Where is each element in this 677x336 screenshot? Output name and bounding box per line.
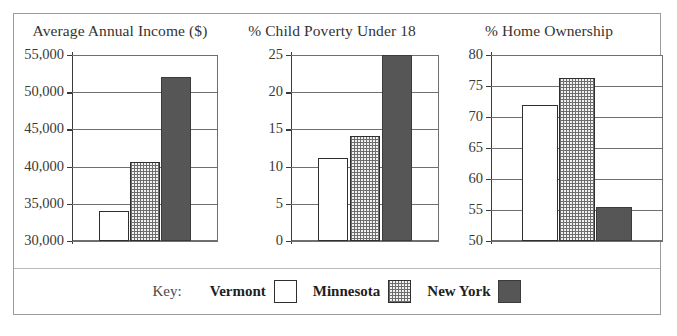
y-axis-tick-label: 60 <box>469 170 484 187</box>
y-axis-tick-label: 45,000 <box>24 121 64 138</box>
bar-series <box>291 55 439 241</box>
y-axis-tick-label: 25 <box>269 46 284 63</box>
gridline <box>291 241 439 242</box>
chart-panels: Average Annual Income ($) 30,00035,00040… <box>14 14 660 268</box>
plot-area: 30,00035,00040,00045,00050,00055,000 <box>72 55 218 241</box>
y-axis-tick <box>67 241 72 242</box>
y-axis-tick-label: 55,000 <box>24 46 64 63</box>
legend-item-minnesota: Minnesota <box>313 280 412 303</box>
gridline <box>491 241 663 242</box>
y-axis-tick-label: 10 <box>269 158 284 175</box>
chart-panel-child-poverty: % Child Poverty Under 18 0510152025 <box>226 14 438 268</box>
chart-title: Average Annual Income ($) <box>14 22 226 40</box>
bar-series <box>491 55 663 241</box>
bar-minnesota <box>350 136 380 241</box>
legend-key-label: Key: <box>153 283 182 300</box>
bar-series <box>72 55 218 241</box>
bar-vermont <box>522 105 557 241</box>
gridline <box>72 241 218 242</box>
y-axis-tick-label: 70 <box>469 108 484 125</box>
y-axis-tick-label: 40,000 <box>24 158 64 175</box>
y-axis-tick-label: 50,000 <box>24 84 64 101</box>
y-axis-tick-label: 50 <box>469 232 484 249</box>
y-axis-tick-label: 0 <box>276 232 283 249</box>
figure-container: Average Annual Income ($) 30,00035,00040… <box>13 13 661 315</box>
bar-vermont <box>99 211 129 241</box>
bar-vermont <box>318 158 348 241</box>
legend-item-new-york: New York <box>427 280 521 303</box>
legend-label-vermont: Vermont <box>210 283 266 300</box>
chart-title: % Home Ownership <box>438 22 660 40</box>
y-axis-tick-label: 5 <box>276 195 283 212</box>
bar-minnesota <box>130 162 160 241</box>
y-axis-tick-label: 35,000 <box>24 195 64 212</box>
y-axis-tick-label: 75 <box>469 77 484 94</box>
chart-panel-home-ownership: % Home Ownership 50556065707580 <box>438 14 660 268</box>
legend-swatch-vermont <box>274 280 297 303</box>
chart-panel-average-annual-income: Average Annual Income ($) 30,00035,00040… <box>14 14 226 268</box>
y-axis-tick-label: 15 <box>269 121 284 138</box>
y-axis-tick-label: 65 <box>469 139 484 156</box>
bar-new-york <box>161 77 191 241</box>
y-axis-tick-label: 55 <box>469 201 484 218</box>
legend-swatch-minnesota <box>388 280 411 303</box>
y-axis-tick <box>286 241 291 242</box>
plot-area: 0510152025 <box>291 55 439 241</box>
y-axis-tick-label: 30,000 <box>24 232 64 249</box>
legend-label-new-york: New York <box>427 283 490 300</box>
legend-item-vermont: Vermont <box>210 280 297 303</box>
chart-legend: Key: Vermont Minnesota New York <box>14 269 660 314</box>
bar-minnesota <box>559 78 594 241</box>
legend-swatch-new-york <box>498 280 521 303</box>
legend-label-minnesota: Minnesota <box>313 283 381 300</box>
y-axis-tick-label: 80 <box>469 46 484 63</box>
chart-title: % Child Poverty Under 18 <box>226 22 438 40</box>
bar-new-york <box>596 207 631 241</box>
plot-area: 50556065707580 <box>491 55 663 241</box>
y-axis-tick-label: 20 <box>269 84 284 101</box>
bar-new-york <box>382 55 412 241</box>
y-axis-tick <box>486 241 491 242</box>
